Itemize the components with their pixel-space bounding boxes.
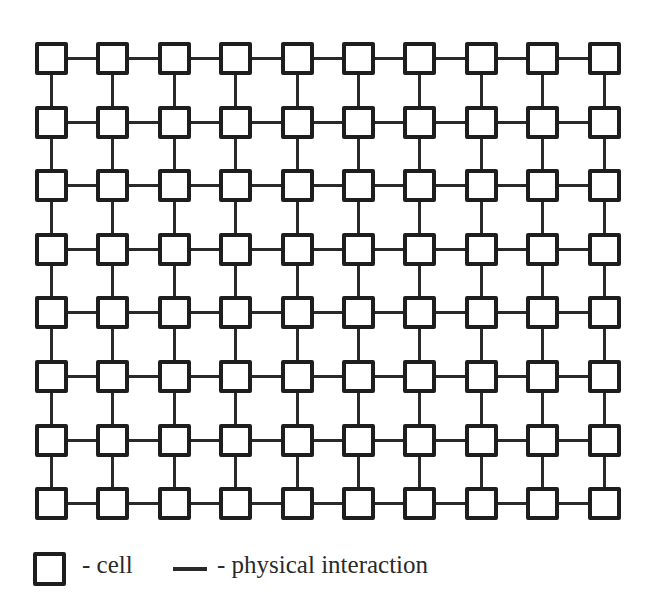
cell-node — [342, 169, 375, 202]
interaction-link — [50, 455, 53, 490]
interaction-link — [434, 57, 466, 60]
cell-node — [588, 296, 621, 329]
interaction-link — [557, 502, 589, 505]
cell-node — [219, 233, 252, 266]
cell-node — [465, 233, 498, 266]
interaction-link — [234, 73, 237, 108]
cell-lattice-grid — [0, 0, 655, 540]
cell-node — [281, 424, 314, 457]
cell-node — [219, 360, 252, 393]
interaction-link — [541, 455, 544, 490]
cell-node — [96, 296, 129, 329]
cell-node — [526, 106, 559, 139]
interaction-link — [496, 439, 528, 442]
interaction-link — [557, 57, 589, 60]
interaction-link — [111, 391, 114, 426]
cell-node — [526, 42, 559, 75]
cell-node — [158, 169, 191, 202]
interaction-link — [66, 439, 98, 442]
interaction-link — [418, 73, 421, 108]
interaction-link — [312, 439, 344, 442]
interaction-link — [480, 73, 483, 108]
interaction-link — [189, 502, 221, 505]
cell-node — [342, 42, 375, 75]
cell-node — [588, 169, 621, 202]
interaction-link — [296, 200, 299, 235]
interaction-link — [357, 200, 360, 235]
cell-node — [342, 296, 375, 329]
interaction-link — [250, 184, 282, 187]
interaction-link — [357, 73, 360, 108]
interaction-link — [234, 327, 237, 362]
interaction-link — [173, 327, 176, 362]
interaction-link — [357, 137, 360, 172]
interaction-link — [418, 200, 421, 235]
interaction-link — [312, 375, 344, 378]
cell-node — [281, 169, 314, 202]
interaction-link — [418, 327, 421, 362]
interaction-link — [496, 121, 528, 124]
interaction-link — [234, 264, 237, 299]
interaction-link — [603, 73, 606, 108]
cell-node — [588, 233, 621, 266]
interaction-link — [357, 391, 360, 426]
interaction-link — [66, 248, 98, 251]
legend-cell-icon — [33, 552, 66, 586]
interaction-link — [234, 137, 237, 172]
cell-node — [342, 106, 375, 139]
cell-node — [342, 360, 375, 393]
interaction-link — [434, 184, 466, 187]
interaction-link — [296, 137, 299, 172]
cell-node — [465, 487, 498, 520]
interaction-link — [296, 455, 299, 490]
interaction-link — [541, 264, 544, 299]
interaction-link — [418, 264, 421, 299]
interaction-link — [66, 311, 98, 314]
cell-node — [403, 424, 436, 457]
interaction-link — [111, 73, 114, 108]
cell-node — [158, 296, 191, 329]
interaction-link — [234, 391, 237, 426]
interaction-link — [603, 327, 606, 362]
interaction-link — [557, 311, 589, 314]
interaction-link — [296, 327, 299, 362]
interaction-link — [189, 439, 221, 442]
interaction-link — [373, 57, 405, 60]
interaction-link — [234, 455, 237, 490]
cell-node — [96, 424, 129, 457]
cell-node — [588, 106, 621, 139]
interaction-link — [66, 184, 98, 187]
interaction-link — [373, 184, 405, 187]
interaction-link — [541, 327, 544, 362]
interaction-link — [480, 455, 483, 490]
cell-node — [96, 106, 129, 139]
cell-node — [219, 169, 252, 202]
cell-node — [158, 233, 191, 266]
interaction-link — [127, 502, 159, 505]
interaction-link — [111, 455, 114, 490]
interaction-link — [50, 73, 53, 108]
interaction-link — [312, 57, 344, 60]
cell-node — [96, 169, 129, 202]
cell-node — [219, 424, 252, 457]
cell-node — [403, 360, 436, 393]
interaction-link — [434, 502, 466, 505]
interaction-link — [557, 121, 589, 124]
interaction-link — [173, 200, 176, 235]
cell-node — [281, 106, 314, 139]
interaction-link — [496, 311, 528, 314]
cell-node — [35, 106, 68, 139]
interaction-link — [357, 327, 360, 362]
interaction-link — [312, 248, 344, 251]
cell-node — [35, 296, 68, 329]
cell-node — [465, 296, 498, 329]
interaction-link — [603, 455, 606, 490]
interaction-link — [373, 311, 405, 314]
cell-node — [35, 360, 68, 393]
interaction-link — [373, 375, 405, 378]
interaction-link — [418, 137, 421, 172]
cell-node — [526, 360, 559, 393]
interaction-link — [127, 57, 159, 60]
interaction-link — [312, 121, 344, 124]
cell-node — [342, 487, 375, 520]
